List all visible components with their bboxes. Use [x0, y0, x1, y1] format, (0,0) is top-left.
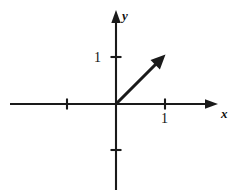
y-axis-arrow-icon	[111, 10, 120, 23]
vector-arrow-shaft	[116, 62, 158, 104]
x-axis-arrow-icon	[205, 99, 218, 108]
x-axis-tick-label-one: 1	[161, 112, 168, 126]
coordinate-plane-canvas	[0, 0, 237, 194]
y-axis-label: y	[122, 9, 128, 22]
vector-diagram-figure: y x 1 1	[0, 0, 237, 194]
y-axis-tick-label-one: 1	[94, 51, 101, 65]
x-axis-label: x	[221, 107, 228, 120]
